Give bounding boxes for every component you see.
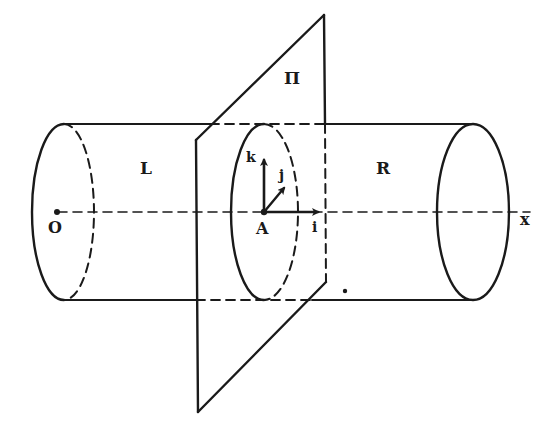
plane-bottom-diagonal	[198, 282, 326, 412]
vector-j-label: j	[279, 168, 284, 182]
plane-left-edge	[196, 140, 198, 412]
plane-label: Π	[284, 70, 300, 87]
vector-i-label: i	[312, 220, 317, 234]
point-A	[261, 209, 267, 215]
axis-x-label: x	[520, 212, 530, 228]
plane-right-edge-visible	[324, 15, 325, 124]
stray-dot	[343, 289, 347, 293]
point-A-label: A	[256, 221, 268, 237]
origin-label: O	[48, 220, 62, 236]
plane-top-diagonal	[196, 15, 324, 140]
left-part-label: L	[140, 160, 152, 177]
diagram-canvas: Π L R O A x i j k	[0, 0, 542, 422]
point-origin	[54, 209, 60, 215]
right-part-label: R	[376, 160, 390, 177]
plane-right-edge-hidden	[325, 124, 326, 282]
vector-k-label: k	[246, 150, 256, 164]
vector-j-arrow	[264, 188, 284, 212]
diagram-svg	[0, 0, 542, 422]
